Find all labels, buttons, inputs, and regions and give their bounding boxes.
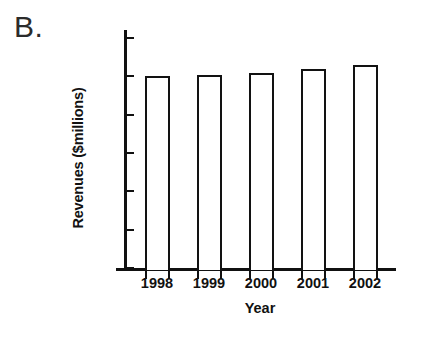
- x-tick-label-2000: 2000: [231, 276, 291, 291]
- bar-1999: [197, 75, 222, 270]
- bar-2000: [249, 73, 274, 271]
- bar-1998: [145, 76, 170, 270]
- plot-area: 0102030405060 19981999200020012002: [124, 30, 396, 271]
- y-tick-10: [127, 229, 134, 231]
- y-tick-50: [127, 75, 134, 77]
- y-tick-60: [127, 37, 134, 39]
- y-axis-title: Revenues ($millions): [70, 38, 86, 278]
- x-tick-label-1998: 1998: [127, 276, 187, 291]
- bar-2002: [353, 65, 378, 270]
- x-tick-label-2002: 2002: [335, 276, 395, 291]
- y-tick-30: [127, 152, 134, 154]
- panel-label: B.: [14, 12, 43, 42]
- figure-panel-b: B. Revenues ($millions) 0102030405060 19…: [0, 0, 426, 337]
- y-tick-0: [127, 267, 134, 269]
- x-axis-title: Year: [124, 300, 396, 316]
- y-tick-20: [127, 190, 134, 192]
- x-tick-label-2001: 2001: [283, 276, 343, 291]
- x-tick-label-1999: 1999: [179, 276, 239, 291]
- bar-2001: [301, 69, 326, 270]
- y-axis-line: [124, 30, 127, 271]
- y-tick-40: [127, 114, 134, 116]
